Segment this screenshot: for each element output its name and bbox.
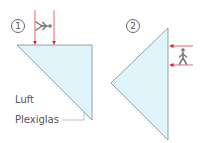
plexiglas-leader [62,112,84,120]
prism-1 [17,45,92,120]
label-air: Luft [15,95,34,105]
person-standing-icon [180,48,187,64]
label-plexiglass: Plexiglas [15,115,59,125]
panel-1-number: 1 [11,19,25,33]
prism-2 [111,28,168,140]
panel-2-number: 2 [126,19,140,33]
person-lying-icon [36,22,52,30]
